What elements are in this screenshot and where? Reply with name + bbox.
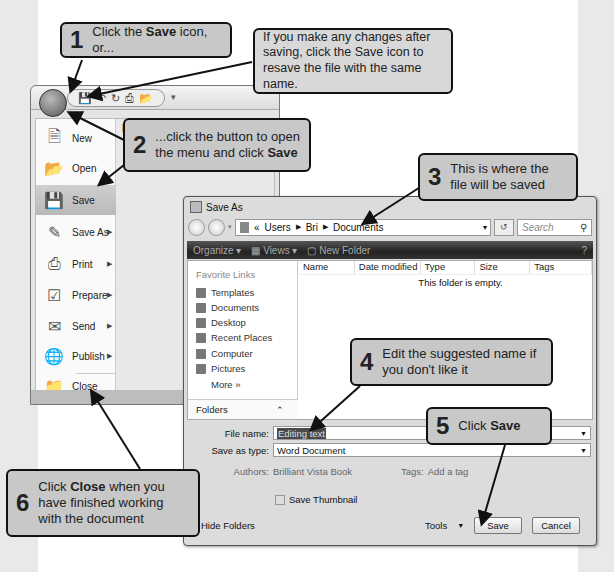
link-templates[interactable]: Templates: [196, 287, 254, 298]
search-icon: ⚲: [580, 222, 591, 233]
quick-access-toolbar: 💾 ↶ ↻ ⎙ 📂 ▾: [31, 86, 279, 110]
printer-icon: ⎙: [42, 252, 66, 276]
save-as-icon: ✎: [42, 220, 66, 244]
menu-item-prepare[interactable]: ☑Prepare▶: [36, 280, 116, 310]
chevron-down-icon[interactable]: ▼: [580, 430, 590, 437]
menu-item-open[interactable]: 📂Open: [36, 153, 116, 183]
address-row: ▾ « Users ▶ Bri ▶ Documents ▾ ↺ Search ⚲: [188, 217, 592, 237]
address-bar[interactable]: « Users ▶ Bri ▶ Documents ▾: [235, 219, 491, 236]
save-icon[interactable]: 💾: [78, 92, 92, 105]
submenu-arrow-icon: ▶: [107, 291, 112, 299]
save-thumbnail-checkbox[interactable]: Save Thumbnail: [275, 494, 357, 505]
new-doc-icon: 🗎: [42, 126, 66, 150]
menu-item-new[interactable]: 🗎New: [36, 123, 116, 153]
breadcrumb-users[interactable]: Users: [265, 222, 291, 233]
cancel-button[interactable]: Cancel: [532, 517, 580, 534]
dialog-toolbar: Organize ▾ ▦ Views ▾ ▢ New Folder ?: [187, 241, 593, 259]
print-icon[interactable]: ⎙: [125, 92, 134, 105]
link-documents[interactable]: Documents: [196, 302, 259, 313]
callout-step-6: 6 Click Close when you have finished wor…: [6, 469, 200, 537]
dialog-title: Save As: [206, 202, 243, 213]
office-button[interactable]: [39, 89, 67, 117]
undo-icon[interactable]: ↶: [97, 92, 106, 105]
organize-button[interactable]: Organize ▾: [193, 245, 241, 256]
callout-tip: If you make any changes after saving, cl…: [253, 28, 453, 94]
search-input[interactable]: Search ⚲: [517, 219, 592, 236]
open-icon[interactable]: 📂: [139, 92, 153, 105]
desktop-icon: [196, 318, 206, 328]
templates-icon: [196, 288, 206, 298]
submenu-arrow-icon: ▶: [107, 322, 112, 330]
hide-folders-button[interactable]: Hide Folders: [201, 520, 255, 531]
menu-item-print[interactable]: ⎙Print▶: [36, 249, 116, 279]
menu-item-publish[interactable]: 🌐Publish▶: [36, 341, 116, 371]
link-computer[interactable]: Computer: [196, 348, 253, 359]
forward-button[interactable]: [208, 219, 225, 236]
refresh-button[interactable]: ↺: [494, 219, 514, 236]
breadcrumb-bri[interactable]: Bri: [306, 222, 318, 233]
menu-item-save-as[interactable]: ✎Save As▶: [36, 217, 116, 247]
pictures-icon: [196, 364, 206, 374]
new-folder-button[interactable]: ▢ New Folder: [307, 245, 370, 256]
favorite-links-title: Favorite Links: [196, 269, 255, 280]
computer-icon: [196, 349, 206, 359]
callout-step-3: 3 This is where the file will be saved: [418, 153, 578, 201]
qat-customize-caret[interactable]: ▾: [171, 92, 176, 102]
link-desktop[interactable]: Desktop: [196, 317, 246, 328]
save-disk-icon: 💾: [42, 188, 66, 212]
callout-step-1: 1 Click the Save icon, or...: [60, 22, 232, 58]
save-type-label: Save as type:: [187, 445, 273, 456]
open-folder-icon: 📂: [42, 156, 66, 180]
checkbox[interactable]: [275, 495, 285, 505]
dialog-icon: [190, 201, 202, 213]
menu-item-send[interactable]: ✉Send▶: [36, 311, 116, 341]
chevron-up-icon: ⌃: [276, 405, 298, 415]
callout-step-2: 2 ...click the button to open the menu a…: [123, 118, 311, 172]
breadcrumb-documents[interactable]: Documents: [333, 222, 384, 233]
column-headers: Name Date modified Type Size Tags: [299, 261, 592, 275]
col-name[interactable]: Name: [299, 261, 355, 274]
breadcrumb-sep-icon: ▶: [296, 223, 301, 231]
col-tags[interactable]: Tags: [530, 261, 592, 274]
submenu-arrow-icon: ▶: [107, 352, 112, 360]
publish-icon: 🌐: [42, 344, 66, 368]
link-pictures[interactable]: Pictures: [196, 363, 245, 374]
callout-step-5: 5 Click Save: [426, 407, 552, 445]
redo-icon[interactable]: ↻: [111, 92, 120, 105]
tags-row: Tags: Add a tag: [401, 466, 468, 477]
col-type[interactable]: Type: [421, 261, 476, 274]
tags-value[interactable]: Add a tag: [428, 466, 469, 477]
save-type-select[interactable]: Word Document▼: [273, 443, 591, 457]
qat-icons: 💾 ↶ ↻ ⎙ 📂: [67, 89, 165, 107]
documents-icon: [196, 303, 206, 313]
views-button[interactable]: ▦ Views ▾: [251, 245, 297, 256]
file-name-label: File name:: [187, 428, 273, 439]
authors-value[interactable]: Brilliant Vista Book: [273, 466, 352, 477]
folder-icon: [240, 222, 249, 233]
menu-commands: 🗎New 📂Open 💾Save ✎Save As▶ ⎙Print▶ ☑Prep…: [36, 119, 116, 397]
send-icon: ✉: [42, 314, 66, 338]
breadcrumb-overflow[interactable]: «: [254, 222, 260, 233]
link-recent-places[interactable]: Recent Places: [196, 332, 272, 343]
submenu-arrow-icon: ▶: [107, 228, 112, 236]
address-dropdown-icon[interactable]: ▾: [483, 223, 490, 232]
callout-step-4: 4 Edit the suggested name if you don't l…: [350, 338, 553, 386]
folders-toggle[interactable]: Folders ⌃: [188, 399, 298, 419]
help-icon[interactable]: ?: [581, 245, 593, 256]
more-links[interactable]: More »: [211, 379, 241, 390]
recent-pages-caret[interactable]: ▾: [228, 223, 232, 231]
menu-item-save[interactable]: 💾Save: [36, 185, 116, 215]
chevron-down-icon[interactable]: ▼: [580, 447, 590, 454]
back-button[interactable]: [188, 219, 205, 236]
col-date-modified[interactable]: Date modified: [355, 261, 421, 274]
save-button[interactable]: Save: [474, 517, 522, 534]
tools-button[interactable]: Tools▼: [425, 520, 464, 531]
empty-folder-message: This folder is empty.: [299, 277, 592, 288]
navigation-pane: Favorite Links Templates Documents Deskt…: [188, 261, 298, 419]
recent-places-icon: [196, 333, 206, 343]
save-type-row: Save as type: Word Document▼: [187, 443, 591, 457]
authors-row: Authors: Brilliant Vista Book: [187, 466, 352, 477]
prepare-icon: ☑: [42, 283, 66, 307]
col-size[interactable]: Size: [475, 261, 530, 274]
dialog-titlebar: Save As: [190, 201, 243, 213]
